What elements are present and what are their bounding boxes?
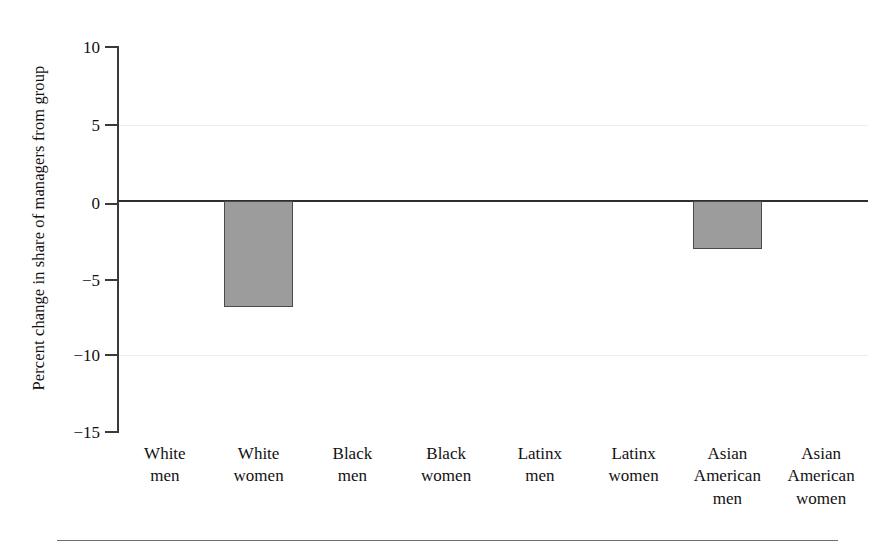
y-axis-spine	[117, 46, 119, 433]
x-category-asian-american-men: Asian American men	[681, 443, 775, 523]
x-category-line: White	[118, 443, 212, 465]
x-category-line: Black	[306, 443, 400, 465]
x-category-line: men	[493, 465, 587, 487]
bar-asian-american-men[interactable]	[693, 201, 762, 249]
x-category-white-men: White men	[118, 443, 212, 523]
gridline-5	[118, 125, 868, 126]
x-category-line: women	[399, 465, 493, 487]
x-category-line: Latinx	[587, 443, 681, 465]
x-category-line: men	[118, 465, 212, 487]
x-axis-category-labels: White men White women Black men Black wo…	[118, 443, 868, 523]
x-category-line: women	[774, 488, 868, 510]
y-tick-mark-neg15	[105, 431, 118, 433]
y-tick-label-10: 10	[38, 39, 100, 56]
x-category-line: Asian	[681, 443, 775, 465]
x-category-black-women: Black women	[399, 443, 493, 523]
x-category-latinx-men: Latinx men	[493, 443, 587, 523]
y-tick-mark-neg10	[105, 354, 118, 356]
y-tick-label-5: 5	[38, 117, 100, 134]
y-tick-label-neg10: −10	[38, 347, 100, 364]
bottom-divider-rule	[57, 540, 838, 541]
x-category-line: White	[212, 443, 306, 465]
x-category-asian-american-women: Asian American women	[774, 443, 868, 523]
x-category-line: American	[681, 465, 775, 487]
x-category-latinx-women: Latinx women	[587, 443, 681, 523]
bar-white-women[interactable]	[224, 201, 293, 307]
y-tick-label-neg15: −15	[38, 424, 100, 441]
y-tick-mark-0	[105, 203, 118, 205]
y-tick-label-0: 0	[38, 195, 100, 212]
x-category-line: Black	[399, 443, 493, 465]
y-tick-label-neg5: −5	[38, 272, 100, 289]
x-category-line: women	[212, 465, 306, 487]
x-category-line: American	[774, 465, 868, 487]
gridline-neg10	[118, 355, 868, 356]
y-tick-mark-10	[105, 46, 118, 48]
x-category-line: men	[681, 488, 775, 510]
y-tick-mark-5	[105, 124, 118, 126]
x-category-line: women	[587, 465, 681, 487]
bar-chart-figure: Percent change in share of managers from…	[0, 0, 891, 557]
y-tick-mark-neg5	[105, 279, 118, 281]
x-category-black-men: Black men	[306, 443, 400, 523]
x-category-line: men	[306, 465, 400, 487]
y-axis-tick-labels: 10 5 0 −5 −10 −15	[30, 0, 100, 557]
x-category-line: Asian	[774, 443, 868, 465]
x-category-white-women: White women	[212, 443, 306, 523]
x-category-line: Latinx	[493, 443, 587, 465]
